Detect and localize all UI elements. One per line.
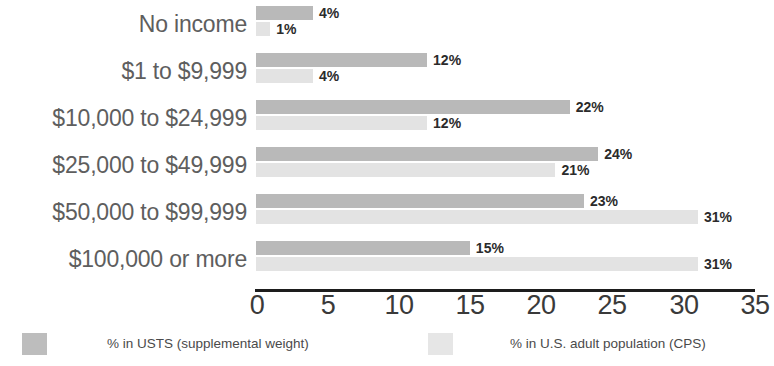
bar-primary-value: 15% [476,241,504,255]
chart-row-group: $10,000 to $24,999 22% 12% [0,94,774,141]
bar-secondary-fill [256,163,555,177]
bar-secondary-fill [256,210,698,224]
bar-primary-fill [256,241,470,255]
bar-secondary-value: 12% [433,116,461,130]
x-axis-ticks: 0 5 10 15 20 25 30 35 [0,292,774,326]
chart-row-group: $1 to $9,999 12% 4% [0,47,774,94]
bar-secondary-fill [256,116,427,130]
bar-primary-value: 23% [590,194,618,208]
category-label: $10,000 to $24,999 [52,106,247,129]
legend-item-cps[interactable]: % in U.S. adult population (CPS) [428,330,706,358]
x-tick-label: 30 [669,292,698,319]
bar-primary-value: 24% [604,147,632,161]
bar-pair: 12% 4% [256,47,774,94]
bar-pair: 4% 1% [256,0,774,47]
bar-primary-value: 22% [576,100,604,114]
chart-row-group: $50,000 to $99,999 23% 31% [0,188,774,235]
legend-label: % in USTS (supplemental weight) [107,337,309,351]
income-distribution-bar-chart: No income 4% 1% $1 to $9,999 12% [0,0,774,366]
bar-secondary-fill [256,257,698,271]
bar-secondary-value: 4% [319,69,339,83]
bar-secondary-value: 1% [276,22,296,36]
category-label: $100,000 or more [69,247,247,270]
x-tick-label: 15 [455,292,484,319]
legend-swatch-icon [428,333,453,355]
bar-primary-value: 4% [319,6,339,20]
category-label: $1 to $9,999 [122,59,248,82]
bar-primary-fill [256,6,313,20]
chart-plot-area: No income 4% 1% $1 to $9,999 12% [0,0,774,300]
bar-pair: 15% 31% [256,235,774,282]
x-tick-label: 25 [597,292,626,319]
x-tick-label: 0 [250,292,265,319]
legend-item-usts[interactable]: % in USTS (supplemental weight) [22,330,309,358]
bar-secondary-fill [256,22,270,36]
bar-secondary-fill [256,69,313,83]
chart-legend: % in USTS (supplemental weight) % in U.S… [0,330,774,366]
bar-secondary-value: 31% [704,257,732,271]
bar-primary-fill [256,194,584,208]
bar-pair: 22% 12% [256,94,774,141]
chart-row-group: $100,000 or more 15% 31% [0,235,774,282]
legend-swatch-icon [22,333,47,355]
chart-row-group: $25,000 to $49,999 24% 21% [0,141,774,188]
bar-primary-value: 12% [433,53,461,67]
category-label: No income [139,12,247,35]
category-label: $25,000 to $49,999 [52,153,247,176]
x-tick-label: 5 [321,292,336,319]
bar-pair: 23% 31% [256,188,774,235]
bar-secondary-value: 21% [561,163,589,177]
bar-primary-fill [256,147,598,161]
x-tick-label: 10 [384,292,413,319]
legend-label: % in U.S. adult population (CPS) [510,337,706,351]
bar-primary-fill [256,100,570,114]
x-tick-label: 20 [526,292,555,319]
bar-secondary-value: 31% [704,210,732,224]
bar-pair: 24% 21% [256,141,774,188]
x-tick-label: 35 [740,292,769,319]
category-label: $50,000 to $99,999 [52,200,247,223]
bar-primary-fill [256,53,427,67]
chart-row-group: No income 4% 1% [0,0,774,47]
